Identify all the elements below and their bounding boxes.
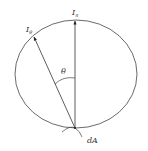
intensity-ellipse: [15, 20, 137, 128]
area-element-curve: [62, 127, 82, 137]
angle-arc: [55, 78, 75, 84]
radiation-intensity-diagram: In Iθ θ dA: [0, 0, 148, 151]
label-area-element: dA: [87, 136, 98, 145]
label-angled-intensity: Iθ: [25, 25, 32, 35]
label-normal-intensity: In: [71, 8, 78, 18]
origin-point: [74, 127, 76, 129]
angled-intensity-arrow: [34, 37, 75, 128]
label-angle-theta: θ: [61, 67, 66, 76]
